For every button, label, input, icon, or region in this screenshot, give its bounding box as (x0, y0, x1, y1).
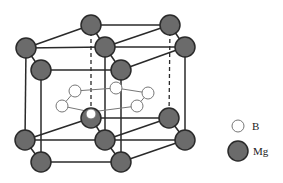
magnesium-legend-icon (228, 141, 248, 161)
magnesium-atom (95, 37, 115, 57)
magnesium-atom (31, 60, 51, 80)
magnesium-atom (159, 108, 179, 128)
magnesium-atom (95, 130, 115, 150)
magnesium-atom (15, 130, 35, 150)
boron-atom (131, 100, 143, 112)
boron-atom (110, 82, 122, 94)
magnesium-atom (31, 152, 51, 172)
magnesium-atom (175, 130, 195, 150)
boron-atom (56, 100, 68, 112)
magnesium-atom (175, 37, 195, 57)
overlay-boron (86, 109, 96, 119)
legend: B Mg (228, 120, 269, 161)
mgb2-crystal-diagram: B Mg (0, 0, 283, 183)
boron-legend-icon (232, 120, 244, 132)
magnesium-atom (16, 38, 36, 58)
boron-atom (69, 85, 81, 97)
legend-label-mg: Mg (253, 145, 269, 157)
legend-label-b: B (252, 120, 259, 132)
magnesium-atom (81, 15, 101, 35)
boron-atom (142, 87, 154, 99)
magnesium-atom (160, 15, 180, 35)
magnesium-atom (111, 152, 131, 172)
magnesium-atom (111, 60, 131, 80)
